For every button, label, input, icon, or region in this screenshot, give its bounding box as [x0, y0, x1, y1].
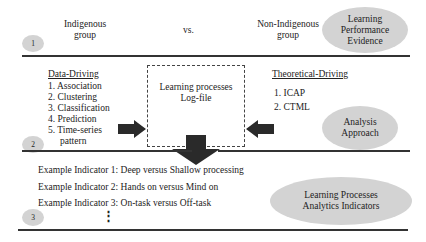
ellipse-line: Evidence	[341, 36, 390, 47]
section-divider-2-right	[218, 150, 410, 152]
list-item: pattern	[48, 136, 110, 147]
non-indigenous-line-2: group	[246, 30, 330, 41]
list-item: 4. Prediction	[48, 114, 110, 125]
left-arrow-icon	[246, 120, 274, 138]
data-driving-list: 1. Association 2. Clustering 3. Classifi…	[48, 81, 110, 147]
indicator-3: Example Indicator 3: On-task versus Off-…	[38, 198, 211, 209]
indigenous-line-2: group	[50, 30, 120, 41]
non-indigenous-group-label: Non-Indigenous group	[246, 19, 330, 41]
log-file-label: Learning processes Log-file	[147, 82, 245, 104]
list-item: 2. Clustering	[48, 92, 110, 103]
ellipse-line: Analysis	[341, 117, 378, 128]
list-item: 3. Classification	[48, 103, 110, 114]
section-divider-3	[18, 229, 408, 231]
data-driving-title: Data-Driving	[48, 69, 99, 80]
list-item: 5. Time-series	[48, 125, 110, 136]
list-item: 2. CTML	[274, 100, 310, 114]
step-number-label: 1	[31, 39, 35, 48]
theoretical-driving-title: Theoretical-Driving	[272, 69, 348, 80]
log-file-line-1: Learning processes	[147, 82, 245, 93]
indicator-2: Example Indicator 2: Hands on versus Min…	[38, 182, 218, 193]
analysis-approach-ellipse: Analysis Approach	[322, 106, 398, 150]
theoretical-driving-list: 1. ICAP 2. CTML	[274, 86, 310, 114]
section-divider-2-left	[22, 150, 192, 152]
step-number-label: 3	[31, 213, 35, 222]
list-item: 1. Association	[48, 81, 110, 92]
list-item: 1. ICAP	[274, 86, 310, 100]
learning-performance-evidence-ellipse: Learning Performance Evidence	[322, 7, 408, 53]
vs-label: vs.	[183, 25, 194, 36]
log-file-line-2: Log-file	[147, 93, 245, 104]
ellipse-line: Performance	[341, 25, 390, 36]
ellipse-line: Analytics Indicators	[303, 201, 380, 212]
step-number-1: 1	[22, 35, 44, 52]
indicator-1: Example Indicator 1: Deep versus Shallow…	[38, 165, 244, 176]
ellipse-line: Learning Processes	[303, 190, 380, 201]
right-arrow-icon	[118, 120, 146, 138]
ellipse-line: Approach	[341, 128, 378, 139]
step-number-3: 3	[22, 209, 44, 226]
more-indicators-ellipsis: ⋮	[102, 208, 115, 224]
section-divider-1	[22, 55, 410, 57]
indigenous-line-1: Indigenous	[50, 19, 120, 30]
indigenous-group-label: Indigenous group	[50, 19, 120, 41]
analytics-indicators-ellipse: Learning Processes Analytics Indicators	[270, 177, 412, 225]
step-number-label: 2	[31, 140, 35, 149]
non-indigenous-line-1: Non-Indigenous	[246, 19, 330, 30]
ellipse-line: Learning	[341, 14, 390, 25]
